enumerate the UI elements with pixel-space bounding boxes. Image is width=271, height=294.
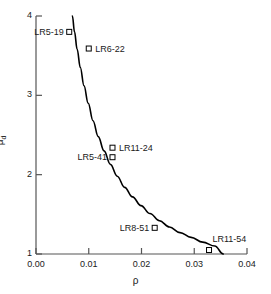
y-tick-label: 3 [14, 90, 32, 99]
data-point-label: LR5-19 [29, 28, 63, 37]
axes [36, 16, 247, 254]
x-tick-label: 0.02 [122, 260, 162, 269]
data-point-marker [110, 145, 115, 150]
data-point-label: LR11-54 [213, 235, 247, 244]
y-axis-title-subscript: d [0, 136, 7, 140]
x-tick-label: 0.04 [227, 260, 267, 269]
data-point-marker [110, 155, 115, 160]
data-point-label: LR5-41 [73, 153, 107, 162]
data-point-marker [86, 46, 91, 51]
y-tick-label: 2 [14, 170, 32, 179]
chart-container: μd ρ 12340.000.010.020.030.04 LR5-19LR6-… [0, 0, 271, 294]
x-tick-label: 0.03 [174, 260, 214, 269]
x-tick-label: 0.01 [69, 260, 109, 269]
y-axis-ticks [36, 16, 42, 254]
data-point-label: LR6-22 [95, 45, 125, 54]
y-axis-title: μd [0, 136, 7, 146]
data-point-marker [152, 225, 157, 230]
data-point-marker [67, 29, 72, 34]
data-point-markers [67, 29, 212, 252]
data-point-marker [207, 248, 212, 253]
data-point-label: LR11-24 [119, 144, 153, 153]
x-axis-title: ρ [0, 276, 271, 286]
x-tick-label: 0.00 [16, 260, 56, 269]
x-axis-ticks [36, 248, 247, 254]
y-tick-label: 1 [14, 249, 32, 258]
data-point-label: LR8-51 [115, 224, 149, 233]
y-axis-title-text: μ [0, 140, 5, 146]
y-tick-label: 4 [14, 11, 32, 20]
y-axis-title-wrap: μd [2, 126, 18, 156]
